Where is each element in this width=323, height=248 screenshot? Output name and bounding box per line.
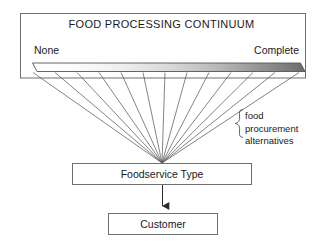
continuum-right-endpoint-label: Complete: [254, 44, 299, 56]
continuum-heading: FOOD PROCESSING CONTINUUM: [0, 18, 323, 31]
brace-annotation-line-2: procurement: [245, 123, 298, 136]
fan-line: [121, 73, 162, 164]
brace-annotation-line-3: alternatives: [245, 135, 298, 148]
foodservice-type-label: Foodservice Type: [72, 168, 252, 180]
continuum-bar-face: [33, 63, 306, 72]
fan-line: [162, 73, 165, 164]
fan-line: [162, 73, 209, 164]
continuum-left-endpoint-label: None: [34, 44, 59, 56]
fan-line: [162, 73, 231, 164]
fan-line: [162, 73, 187, 164]
fan-line: [33, 73, 162, 164]
customer-label: Customer: [108, 218, 218, 230]
diagram-canvas: FOOD PROCESSING CONTINUUM None Complete …: [0, 0, 323, 248]
brace-annotation: food procurement alternatives: [245, 110, 298, 148]
continuum-bar: [33, 63, 306, 72]
fan-line: [77, 73, 162, 164]
brace-annotation-line-1: food: [245, 110, 298, 123]
